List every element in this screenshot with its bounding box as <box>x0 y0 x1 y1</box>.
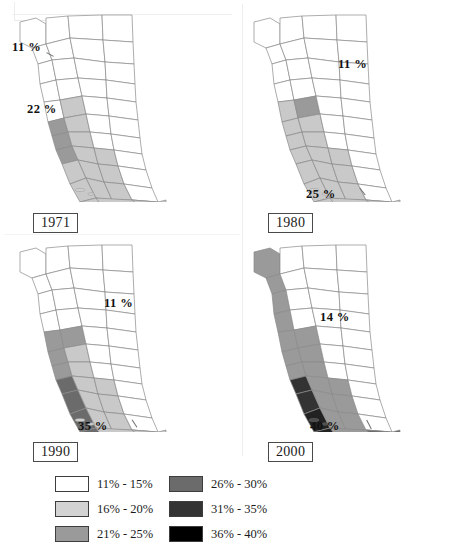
county-sacramento <box>302 132 328 148</box>
county-modoc <box>102 15 133 42</box>
legend-item: 11% - 15% <box>55 474 167 496</box>
los-angeles-annotation-2000: 40 % <box>310 419 340 434</box>
county-sacramento <box>68 132 94 148</box>
legend-swatch-36-40 <box>169 526 203 542</box>
county-siskiyou-e <box>68 15 103 40</box>
panel-1980: 11 % 25 % 1980 <box>234 0 467 230</box>
county-butte <box>78 308 107 328</box>
county-tehama <box>74 58 106 80</box>
county-sacramento <box>302 362 328 378</box>
legend-column-right: 26% - 30% 31% - 35% 36% - 40% <box>169 474 281 548</box>
county-trinity-s <box>286 288 312 310</box>
panel-1971: 11 % 22 % 1971 <box>0 0 233 230</box>
california-map-svg-1990 <box>6 234 228 432</box>
county-yuba <box>82 326 109 346</box>
county-trinity-s <box>52 58 78 80</box>
legend-label-11-15: 11% - 15% <box>97 475 153 493</box>
map-2000: 14 % 40 % <box>234 230 467 430</box>
map-1980: 11 % 25 % <box>234 0 467 200</box>
county-modoc <box>336 15 367 42</box>
legend-swatch-26-30 <box>169 476 203 492</box>
county-lassen <box>337 270 368 294</box>
legend-item: 31% - 35% <box>169 499 281 521</box>
county-amador <box>324 132 348 150</box>
central-valley-annotation-1980: 11 % <box>338 57 367 72</box>
los-angeles-annotation-1980: 25 % <box>306 187 336 202</box>
county-yuba <box>316 96 343 116</box>
county-lassen <box>103 40 134 64</box>
california-map-svg-1980 <box>240 4 462 202</box>
county-siskiyou-e <box>68 245 103 270</box>
legend-swatch-11-15 <box>55 476 89 492</box>
legend-label-36-40: 36% - 40% <box>211 525 267 543</box>
legend-swatch-21-25 <box>55 526 89 542</box>
channel-island-2 <box>88 193 94 196</box>
legend-label-26-30: 26% - 30% <box>211 475 267 493</box>
california-map-svg-2000 <box>240 234 462 432</box>
county-trinity-s <box>52 288 78 310</box>
legend-label-16-20: 16% - 20% <box>97 500 153 518</box>
county-yuba <box>82 96 109 116</box>
percent-range-legend: 11% - 15% 16% - 20% 21% - 25% 26% - 30% … <box>55 474 285 548</box>
county-del-norte <box>20 248 46 278</box>
county-placer <box>320 114 345 134</box>
county-lassen <box>103 270 134 294</box>
panel-1990: 11 % 35 % 1990 <box>0 230 233 460</box>
county-modoc <box>102 245 133 272</box>
county-del-norte <box>254 248 280 278</box>
county-siskiyou-e <box>302 245 337 270</box>
county-trinity-s <box>286 58 312 80</box>
legend-item: 21% - 25% <box>55 524 167 546</box>
map-1990: 11 % 35 % <box>0 230 233 430</box>
map-1971: 11 % 22 % <box>0 0 233 200</box>
legend-item: 26% - 30% <box>169 474 281 496</box>
county-tehama <box>74 288 106 310</box>
los-angeles-annotation-1990: 35 % <box>78 419 108 434</box>
county-tehama <box>308 58 340 80</box>
county-tehama <box>308 288 340 310</box>
bay-area-annotation-1971: 22 % <box>27 102 57 117</box>
channel-island-1 <box>75 188 85 191</box>
county-butte <box>78 78 107 98</box>
county-sacramento <box>68 362 94 378</box>
central-valley-annotation-2000: 14 % <box>320 310 350 325</box>
county-del-norte <box>254 18 280 48</box>
county-placer <box>86 344 111 364</box>
county-yuba <box>316 326 343 346</box>
year-label-1990: 1990 <box>33 442 78 462</box>
county-amador <box>324 362 348 380</box>
county-butte <box>312 78 341 98</box>
legend-swatch-31-35 <box>169 501 203 517</box>
legend-item: 36% - 40% <box>169 524 281 546</box>
figure-canvas: 11 % 22 % 1971 <box>0 0 467 559</box>
legend-item: 16% - 20% <box>55 499 167 521</box>
county-modoc <box>336 245 367 272</box>
north-coast-annotation-1971: 11 % <box>12 40 41 55</box>
panel-2000: 14 % 40 % 2000 <box>234 230 467 460</box>
county-placer <box>86 114 111 134</box>
central-valley-annotation-1990: 11 % <box>104 296 133 311</box>
county-siskiyou-e <box>302 15 337 40</box>
legend-label-31-35: 31% - 35% <box>211 500 267 518</box>
legend-label-21-25: 21% - 25% <box>97 525 153 543</box>
legend-swatch-16-20 <box>55 501 89 517</box>
county-placer <box>320 344 345 364</box>
year-label-2000: 2000 <box>268 442 313 462</box>
legend-column-left: 11% - 15% 16% - 20% 21% - 25% <box>55 474 167 548</box>
county-amador <box>90 362 114 380</box>
county-amador <box>90 132 114 150</box>
